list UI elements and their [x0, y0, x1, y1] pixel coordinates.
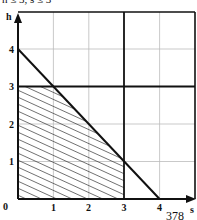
grid — [18, 12, 195, 199]
x-axis-label: s — [190, 204, 194, 215]
feasible-region-diagram: h s 0 1 2 3 4 1 2 3 4 — [0, 0, 197, 220]
x-tick-2: 2 — [86, 202, 91, 213]
y-axis-arrow-icon — [14, 13, 22, 23]
tick-origin: 0 — [3, 201, 8, 212]
y-tick-2: 2 — [9, 119, 14, 130]
x-tick-3: 3 — [122, 202, 127, 213]
plot-frame — [18, 12, 195, 199]
x-tick-4: 4 — [157, 202, 162, 213]
y-axis-label: h — [6, 11, 12, 22]
y-tick-3: 3 — [9, 81, 14, 92]
hatched-feasible-region — [0, 40, 140, 220]
x-tick-1: 1 — [51, 202, 56, 213]
page-number: 378 — [166, 209, 184, 220]
y-tick-1: 1 — [9, 156, 14, 167]
y-tick-4: 4 — [9, 44, 14, 55]
